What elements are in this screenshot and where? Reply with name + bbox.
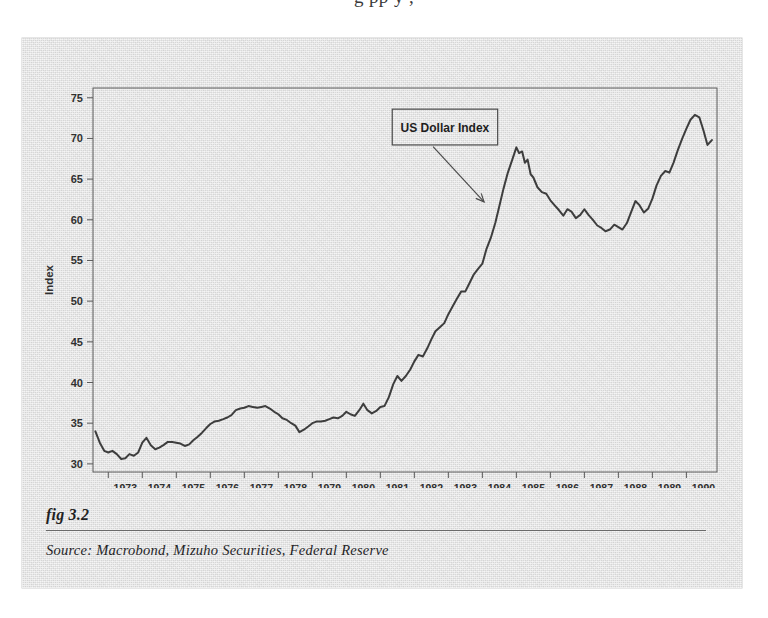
page-top-cropped-text: g pp y , — [0, 0, 768, 8]
y-tick-label-30: 30 — [71, 458, 83, 470]
x-tick-label-1984: 1984 — [488, 482, 512, 488]
x-tick-label-1989: 1989 — [658, 482, 682, 488]
figure-number: fig 3.2 — [46, 506, 706, 524]
x-tick-label-1988: 1988 — [624, 482, 648, 488]
y-tick-label-45: 45 — [71, 336, 83, 348]
data-line-us-dollar-index — [95, 115, 712, 459]
x-tick-label-1981: 1981 — [386, 482, 410, 488]
x-tick-label-1980: 1980 — [352, 482, 376, 488]
y-tick-label-40: 40 — [71, 377, 83, 389]
y-tick-label-75: 75 — [71, 92, 83, 104]
caption-block: fig 3.2 Source: Macrobond, Mizuho Securi… — [46, 506, 706, 559]
x-tick-label-1977: 1977 — [250, 482, 274, 488]
x-tick-label-1982: 1982 — [420, 482, 444, 488]
plot-frame — [93, 88, 717, 472]
x-tick-label-1979: 1979 — [318, 482, 342, 488]
x-tick-label-1976: 1976 — [216, 482, 240, 488]
annotation-label: US Dollar Index — [401, 121, 490, 135]
y-tick-label-70: 70 — [71, 132, 83, 144]
annotation-arrow-line — [433, 147, 484, 202]
chart-area: 30354045505560657075Index197319741975197… — [22, 38, 742, 488]
y-axis-title: Index — [43, 264, 55, 295]
caption-divider — [46, 530, 706, 531]
y-tick-label-60: 60 — [71, 214, 83, 226]
y-tick-label-50: 50 — [71, 295, 83, 307]
y-tick-label-55: 55 — [71, 254, 83, 266]
us-dollar-index-line-chart: 30354045505560657075Index197319741975197… — [22, 38, 742, 488]
x-tick-label-1986: 1986 — [556, 482, 580, 488]
x-tick-label-1974: 1974 — [148, 482, 172, 488]
x-tick-label-1978: 1978 — [284, 482, 308, 488]
source-line: Source: Macrobond, Mizuho Securities, Fe… — [46, 542, 706, 559]
x-tick-label-1987: 1987 — [590, 482, 614, 488]
x-tick-label-1973: 1973 — [114, 482, 138, 488]
x-tick-label-1975: 1975 — [182, 482, 206, 488]
figure-panel: 30354045505560657075Index197319741975197… — [22, 38, 742, 588]
x-tick-label-1990: 1990 — [692, 482, 716, 488]
x-tick-label-1985: 1985 — [522, 482, 546, 488]
y-tick-label-35: 35 — [71, 417, 83, 429]
y-tick-label-65: 65 — [71, 173, 83, 185]
x-tick-label-1983: 1983 — [454, 482, 478, 488]
